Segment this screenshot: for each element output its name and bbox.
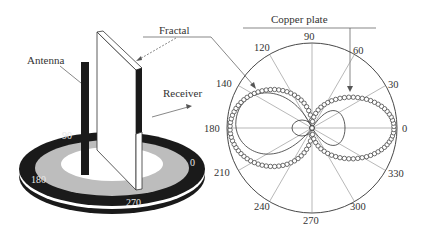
antenna-label: Antenna xyxy=(27,54,64,66)
antenna-bar xyxy=(81,62,89,175)
polar-label-60: 60 xyxy=(353,45,364,56)
polar-label-90: 90 xyxy=(304,31,315,42)
polar-plot: Copper plate 0 30 60 90 120 xyxy=(204,13,407,226)
copper-plate-label: Copper plate xyxy=(271,13,328,25)
polar-label-140: 140 xyxy=(216,78,232,89)
polar-label-0: 0 xyxy=(402,123,407,134)
polar-label-120: 120 xyxy=(254,42,270,53)
fractal-plate-side xyxy=(136,68,142,134)
turntable-label-270: 270 xyxy=(126,197,141,208)
receiver-arrowhead xyxy=(186,104,192,109)
fractal-arrowhead xyxy=(136,56,142,61)
antenna-leader-line xyxy=(60,66,81,83)
turntable-label-180: 180 xyxy=(31,174,46,185)
figure: 90 0 180 270 Antenna Fractal Receiver Co… xyxy=(0,0,423,235)
polar-label-270: 270 xyxy=(303,215,319,226)
fractal-label: Fractal xyxy=(159,24,190,36)
fractal-plot-arrowhead xyxy=(250,82,256,89)
turntable-label-0: 0 xyxy=(190,157,195,168)
polar-label-240: 240 xyxy=(254,201,270,212)
polar-label-300: 300 xyxy=(350,201,366,212)
receiver-label: Receiver xyxy=(163,87,202,99)
polar-label-210: 210 xyxy=(214,167,230,178)
polar-label-30: 30 xyxy=(388,79,399,90)
polar-label-180: 180 xyxy=(204,123,220,134)
fractal-dashed-leader xyxy=(138,38,176,60)
fractal-plate-side-lower xyxy=(136,132,142,190)
turntable-apparatus: 90 0 180 270 Antenna Fractal Receiver xyxy=(19,24,211,214)
turntable-label-90: 90 xyxy=(62,130,72,141)
copper-plate-arrowhead xyxy=(347,86,353,92)
receiver-arrow-line xyxy=(152,107,188,117)
polar-label-330: 330 xyxy=(388,168,404,179)
